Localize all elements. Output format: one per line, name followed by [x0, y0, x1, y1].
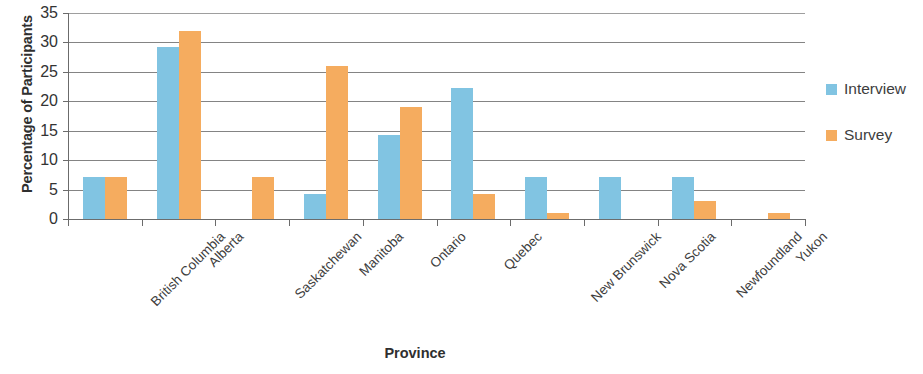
bar-interview [672, 177, 694, 219]
bar-group [584, 13, 658, 219]
y-tick-label: 35 [40, 4, 58, 22]
bar-group [289, 13, 363, 219]
x-axis-title: Province [0, 345, 830, 361]
y-tick-label: 20 [40, 92, 58, 110]
bar-group [142, 13, 216, 219]
y-tick-label: 0 [49, 210, 58, 228]
legend-item[interactable]: Survey [826, 126, 923, 144]
bar-interview [599, 177, 621, 219]
y-tick-label: 5 [49, 181, 58, 199]
y-tick-label: 25 [40, 63, 58, 81]
x-category-label: Newfoundland [734, 229, 806, 301]
y-tick-label: 10 [40, 151, 58, 169]
x-category-label: Ontario [427, 229, 469, 271]
bar-survey [252, 177, 274, 219]
bar-chart: Percentage of Participants 0510152025303… [0, 0, 923, 374]
bar-group [363, 13, 437, 219]
bar-group [437, 13, 511, 219]
bar-survey [326, 66, 348, 219]
x-category-label: Manitoba [356, 229, 406, 279]
legend-label: Survey [844, 126, 892, 144]
bar-group [510, 13, 584, 219]
legend-swatch-icon [826, 84, 837, 95]
bar-survey [473, 194, 495, 219]
bar-interview [378, 135, 400, 219]
y-tick-label: 15 [40, 122, 58, 140]
legend-label: Interview [844, 80, 906, 98]
x-tick-mark [805, 219, 806, 226]
bar-interview [304, 194, 326, 219]
bar-survey [179, 31, 201, 219]
bar-interview [451, 88, 473, 219]
y-tick-label: 30 [40, 33, 58, 51]
y-tick-mark [63, 42, 69, 43]
x-category-label: Nova Scotia [656, 229, 718, 291]
y-tick-mark [63, 131, 69, 132]
bar-group [731, 13, 805, 219]
x-axis-category-labels: British ColumbiaAlbertaSaskatchewanManit… [68, 219, 805, 339]
bar-survey [400, 107, 422, 219]
x-category-label: Quebec [501, 229, 545, 273]
x-category-label: Saskatchewan [292, 229, 365, 302]
y-tick-mark [63, 72, 69, 73]
bar-group [68, 13, 142, 219]
bar-survey [105, 177, 127, 219]
legend-swatch-icon [826, 130, 837, 141]
bar-series-container [68, 13, 805, 219]
bar-interview [525, 177, 547, 219]
bar-interview [83, 177, 105, 219]
plot-area [68, 13, 805, 219]
bar-group [658, 13, 732, 219]
bar-interview [157, 47, 179, 219]
y-axis-tick-labels: 05101520253035 [18, 0, 58, 232]
legend: InterviewSurvey [826, 80, 923, 172]
y-tick-mark [63, 101, 69, 102]
y-tick-mark [63, 160, 69, 161]
legend-item[interactable]: Interview [826, 80, 923, 98]
bar-survey [694, 201, 716, 219]
bar-group [215, 13, 289, 219]
y-tick-mark [63, 190, 69, 191]
x-category-label: New Brunswick [588, 229, 664, 305]
y-tick-mark [63, 13, 69, 14]
